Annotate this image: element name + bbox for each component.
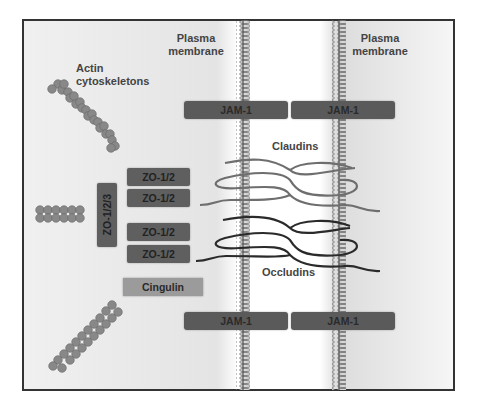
label-line: cytoskeletons [76,75,149,88]
cingulin-box: Cingulin [123,278,203,296]
occludin-strands [196,217,380,271]
plasma-membrane-left-label: Plasma membrane [166,32,226,58]
plasma-membrane-right-label: Plasma membrane [350,32,410,58]
zo12-box-4: ZO-1/2 [127,245,190,263]
zo12-box-1: ZO-1/2 [127,168,190,186]
jam1-bottom-left: JAM-1 [184,312,288,330]
plasma-membrane-left [236,20,250,390]
jam1-top-right: JAM-1 [291,101,395,119]
label-line: membrane [350,45,410,58]
jam1-bottom-right: JAM-1 [291,312,395,330]
zo12-box-3: ZO-1/2 [127,223,190,241]
claudin-strands [200,160,380,212]
label-line: membrane [166,45,226,58]
diagram-graphics [0,0,478,410]
zo123-label: ZO-1/2/3 [101,194,113,235]
label-line: Plasma [350,32,410,45]
label-line: Actin [76,62,149,75]
occludins-label: Occludins [262,266,315,279]
actin-cytoskeletons-label: Actin cytoskeletons [76,62,149,88]
actin-filament-bottom-icon [49,301,123,373]
jam1-top-left: JAM-1 [184,101,288,119]
claudins-label: Claudins [272,140,318,153]
zo12-box-2: ZO-1/2 [127,189,190,207]
label-line: Plasma [166,32,226,45]
zo123-box: ZO-1/2/3 [97,183,117,247]
actin-filament-middle-icon [36,206,85,223]
actin-filament-top-icon [48,80,120,153]
